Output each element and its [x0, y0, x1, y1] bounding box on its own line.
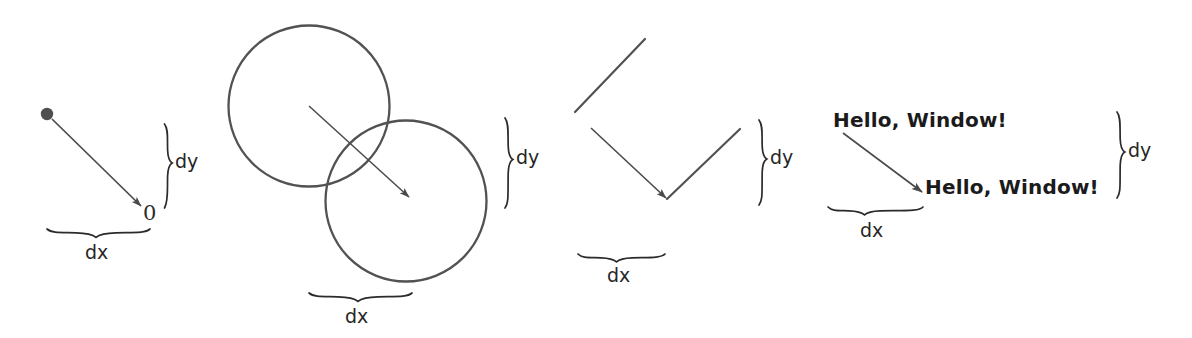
circles-dy-brace [505, 118, 513, 208]
circle-translation-arrow [309, 106, 409, 197]
point-translation-arrow [52, 119, 141, 206]
text-dx-brace [828, 207, 923, 215]
target-line-segment [667, 129, 740, 199]
point-origin-label: 0 [143, 203, 156, 224]
circles-dx-label: dx [345, 307, 368, 326]
line-translation-arrow [591, 128, 666, 198]
greeting-target-text: Hello, Window! [925, 177, 1099, 197]
circles-panel-graphics [229, 26, 513, 302]
greeting-source-text: Hello, Window! [833, 110, 1007, 130]
lines-dx-label: dx [607, 266, 630, 285]
point-dx-brace [47, 229, 150, 237]
text-dy-label: dy [1128, 141, 1151, 160]
point-dy-label: dy [175, 152, 198, 171]
lines-dx-brace [578, 254, 665, 262]
lines-dy-label: dy [770, 148, 793, 167]
source-point-dot [41, 108, 53, 120]
target-circle [326, 121, 487, 282]
lines-panel-graphics [575, 39, 767, 262]
text-dy-brace [1117, 112, 1125, 198]
source-line-segment [575, 39, 645, 112]
point-dx-label: dx [85, 243, 108, 262]
diagram-canvas: 0 dy dx dy dx dy dx Hello, Window! Hello… [0, 0, 1192, 338]
text-translation-arrow [843, 133, 922, 192]
lines-dy-brace [759, 120, 767, 205]
text-dx-label: dx [860, 221, 883, 240]
circles-dx-brace [309, 293, 412, 301]
point-dy-brace [165, 124, 173, 208]
circles-dy-label: dy [516, 148, 539, 167]
